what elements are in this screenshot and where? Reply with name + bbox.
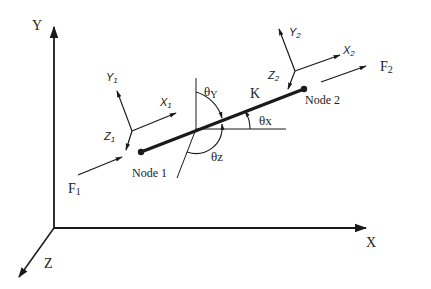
global-x-label: X (366, 235, 376, 250)
local-frame-2: Y2 X2 Z2 (267, 26, 355, 89)
force-f1-label: F1 (68, 181, 81, 197)
local-x1-axis (132, 113, 176, 131)
theta-x-label: θx (259, 113, 272, 128)
local-y2-label: Y2 (289, 26, 301, 40)
local-x2-axis (295, 55, 340, 71)
stiffness-label: K (250, 86, 260, 101)
theta-y-label: θY (204, 84, 217, 100)
force-f2-arrow (321, 66, 366, 82)
node-1-dot (138, 149, 144, 155)
beam-element-diagram: Y X Z K Node 1 Node 2 θY θx θz Y1 X1 Z1 (0, 0, 431, 289)
theta-z-label: θz (211, 149, 223, 164)
local-z2-axis (288, 71, 295, 89)
local-z1-axis (126, 131, 132, 150)
local-z2-label: Z2 (267, 69, 280, 83)
local-z1-label: Z1 (103, 130, 115, 144)
force-f1-arrow (78, 157, 122, 175)
local-x1-label: X1 (159, 96, 172, 110)
theta-x-arc (245, 111, 250, 129)
local-y1-label: Y1 (106, 71, 118, 85)
local-x2-label: X2 (342, 44, 355, 58)
global-z-label: Z (44, 256, 53, 271)
local-frame-1: Y1 X1 Z1 (103, 71, 176, 150)
node-2-dot (301, 86, 307, 92)
global-axes: Y X Z (19, 18, 376, 277)
local-y1-axis (117, 91, 132, 131)
global-y-label: Y (32, 18, 42, 33)
node-2-label: Node 2 (305, 93, 340, 107)
node-1-label: Node 1 (132, 166, 167, 180)
force-f2-label: F2 (380, 59, 393, 75)
angle-reference-lines (177, 78, 286, 178)
